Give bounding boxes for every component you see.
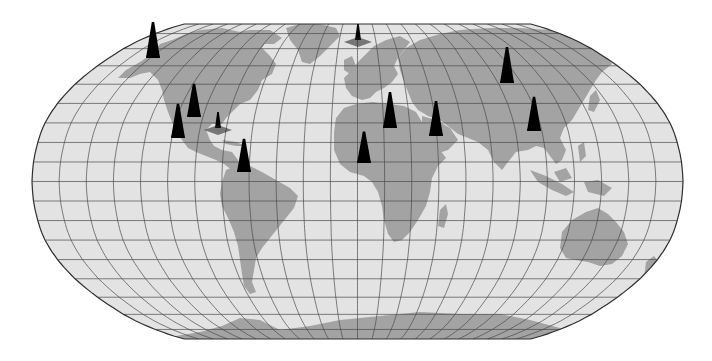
world-map: World map with oil derrick locations (0, 0, 712, 361)
map-canvas: AlaskaWestern United StatesCentral Unite… (0, 0, 712, 361)
